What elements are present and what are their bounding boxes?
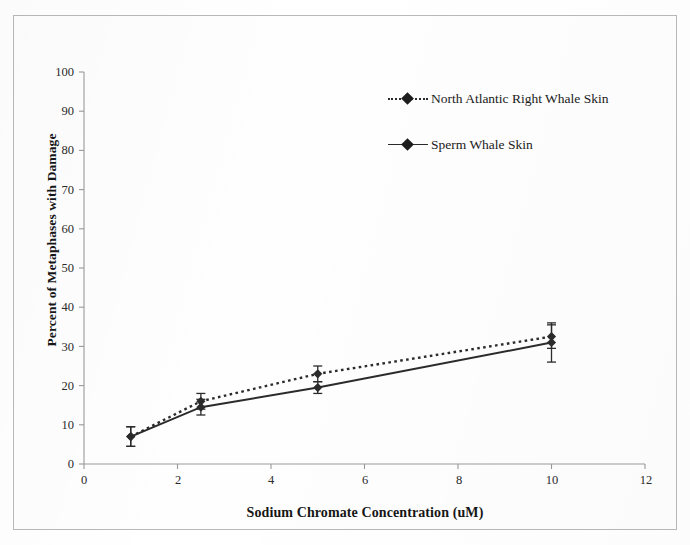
x-axis-ticks — [84, 464, 645, 469]
legend-label-0: North Atlantic Right Whale Skin — [431, 91, 608, 107]
y-tick-label-60: 60 — [38, 222, 74, 237]
x-tick-label-12: 12 — [629, 473, 663, 488]
diamond-marker-icon — [313, 383, 322, 392]
diamond-marker-icon — [401, 92, 414, 105]
legend-label-1: Sperm Whale Skin — [431, 137, 533, 153]
x-tick-label-4: 4 — [254, 473, 288, 488]
y-tick-label-0: 0 — [38, 457, 74, 472]
y-tick-label-70: 70 — [38, 183, 74, 198]
y-tick-label-90: 90 — [38, 104, 74, 119]
diamond-marker-icon — [547, 338, 556, 347]
legend-item-north-atlantic-right-whale-skin: North Atlantic Right Whale Skin — [388, 86, 668, 112]
series-line — [131, 337, 552, 437]
x-tick-label-8: 8 — [442, 473, 476, 488]
series-line — [131, 343, 552, 437]
x-axis-title: Sodium Chromate Concentration (uM) — [84, 505, 646, 521]
diamond-marker-icon — [401, 138, 414, 151]
legend-item-sperm-whale-skin: Sperm Whale Skin — [388, 132, 668, 158]
x-tick-label-0: 0 — [67, 473, 101, 488]
y-tick-label-80: 80 — [38, 143, 74, 158]
y-tick-label-20: 20 — [38, 379, 74, 394]
legend-sample-solid — [388, 138, 428, 152]
y-axis-ticks — [79, 72, 84, 464]
series-narw — [126, 325, 556, 447]
x-tick-label-2: 2 — [161, 473, 195, 488]
line-chart: Percent of Metaphases with Damage Sodium… — [0, 0, 690, 545]
y-tick-label-10: 10 — [38, 418, 74, 433]
y-tick-label-50: 50 — [38, 261, 74, 276]
legend-sample-dotted — [388, 92, 428, 106]
x-tick-label-10: 10 — [535, 473, 569, 488]
diamond-marker-icon — [126, 432, 135, 441]
plot-canvas — [0, 0, 690, 545]
data-series-group — [126, 323, 556, 446]
diamond-marker-icon — [313, 369, 322, 378]
y-tick-label-40: 40 — [38, 300, 74, 315]
x-tick-label-6: 6 — [348, 473, 382, 488]
y-tick-label-100: 100 — [38, 65, 74, 80]
series-sperm — [126, 323, 556, 446]
chart-legend: North Atlantic Right Whale Skin Sperm Wh… — [388, 86, 668, 178]
y-tick-label-30: 30 — [38, 340, 74, 355]
